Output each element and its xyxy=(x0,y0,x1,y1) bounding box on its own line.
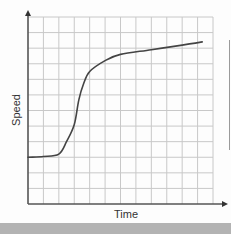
x-axis-arrow-icon xyxy=(222,201,228,207)
chart-page: Time Speed xyxy=(0,0,231,234)
y-axis-label: Speed xyxy=(10,94,22,126)
page-edge-line xyxy=(229,40,230,150)
speed-time-chart: Time Speed xyxy=(0,0,231,234)
y-axis-arrow-icon xyxy=(25,10,31,16)
bottom-band xyxy=(0,223,231,234)
speed-curve xyxy=(28,42,202,157)
x-axis-label: Time xyxy=(114,208,138,220)
